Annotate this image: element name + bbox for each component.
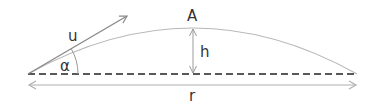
- projectile-diagram: A u h α r: [0, 0, 381, 105]
- velocity-label: u: [68, 27, 78, 45]
- range-label: r: [189, 87, 196, 105]
- height-label: h: [200, 43, 210, 61]
- apex-label: A: [187, 7, 198, 25]
- angle-label: α: [60, 57, 70, 75]
